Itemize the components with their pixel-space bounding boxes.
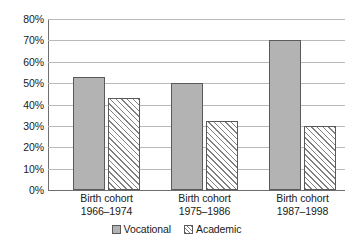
x-label-group-3-line1: Birth cohort xyxy=(276,192,329,204)
x-label-group-3-line2: 1987–1998 xyxy=(244,205,353,218)
grouped-bar-chart: 80% 70% 60% 50% 40% 30% 20% 10% 0% Bi xyxy=(0,0,353,248)
hatched-swatch-icon xyxy=(184,225,193,234)
y-tick-label-30: 30% xyxy=(2,121,44,132)
y-tick-label-50: 50% xyxy=(2,78,44,89)
gridline-80 xyxy=(48,19,345,20)
y-tick-label-10: 10% xyxy=(2,164,44,175)
plot-area xyxy=(48,19,345,190)
y-tick-label-0: 0% xyxy=(2,185,44,196)
legend-item-academic: Academic xyxy=(184,224,241,235)
legend-item-vocational: Vocational xyxy=(112,224,171,235)
x-axis-baseline xyxy=(48,190,345,191)
bar-vocational-1966-1974 xyxy=(73,77,105,190)
x-label-group-3: Birth cohort 1987–1998 xyxy=(244,192,353,218)
chart-legend: Vocational Academic xyxy=(0,224,353,235)
bar-academic-1987-1998 xyxy=(304,126,336,190)
y-axis-tick-labels: 80% 70% 60% 50% 40% 30% 20% 10% 0% xyxy=(0,0,44,248)
y-tick-label-20: 20% xyxy=(2,142,44,153)
y-tick-label-80: 80% xyxy=(2,14,44,25)
bar-academic-1966-1974 xyxy=(108,98,140,190)
bar-academic-1975-1986 xyxy=(206,121,238,191)
solid-gray-swatch-icon xyxy=(112,225,121,234)
x-label-group-1-line1: Birth cohort xyxy=(80,192,133,204)
legend-label-academic: Academic xyxy=(196,224,241,235)
y-tick-label-70: 70% xyxy=(2,35,44,46)
y-tick-label-40: 40% xyxy=(2,100,44,111)
y-tick-label-60: 60% xyxy=(2,57,44,68)
legend-label-vocational: Vocational xyxy=(124,224,171,235)
bar-vocational-1987-1998 xyxy=(269,40,301,190)
x-label-group-2-line1: Birth cohort xyxy=(178,192,231,204)
bar-vocational-1975-1986 xyxy=(171,83,203,190)
x-axis-category-labels: Birth cohort 1966–1974 Birth cohort 1975… xyxy=(48,192,345,226)
